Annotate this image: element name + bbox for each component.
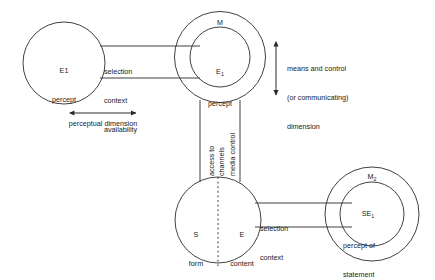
circle-m2-inner-subscript: 1	[371, 213, 374, 219]
diagram-canvas: E1 percept M E1 percept selection contex…	[0, 0, 435, 280]
means-control-line3: dimension	[287, 122, 349, 132]
vertical-band-line1: access to	[207, 146, 217, 176]
vertical-band-line2: channels	[217, 147, 227, 176]
bottom-band-line2: context	[260, 253, 293, 263]
circle-m2-inner-line3: statement	[343, 270, 413, 280]
circle-m-inner-line2: percept	[190, 99, 250, 109]
circle-m-inner-subscript: 1	[221, 71, 224, 77]
circle-m2-inner-line2: percept of	[343, 241, 413, 251]
circle-e1-percept-line2: percept	[24, 95, 104, 105]
circle-e1-percept-line1: E1	[24, 66, 104, 76]
circle-e1-percept-label: E1 percept	[24, 47, 104, 124]
e-content-label: E content	[222, 211, 262, 280]
s-form-label: S form	[178, 211, 214, 280]
perceptual-dimension-label: perceptual dimension	[38, 119, 168, 129]
s-form-sub: form	[178, 259, 214, 269]
bottom-band-label: selection context availability	[260, 205, 293, 280]
circle-m2-inner-main: SE	[362, 209, 372, 218]
circle-m-inner-line1: E1	[190, 67, 250, 80]
top-band-line2: context	[104, 96, 137, 106]
s-form-main: S	[178, 230, 214, 240]
means-control-dimension-label: means and control (or communicating) dim…	[287, 45, 349, 151]
circle-m2-inner-label: SE1 percept of statement about event	[343, 190, 413, 280]
e-content-sub: content	[222, 259, 262, 269]
circle-m-outer-label: M	[198, 18, 242, 28]
means-control-line1: means and control	[287, 64, 349, 74]
vertical-band-line3: media control	[228, 133, 238, 176]
circle-m-inner-label: E1 percept	[190, 48, 250, 128]
circle-m2-outer-subscript: 2	[374, 176, 377, 182]
means-control-line2: (or communicating)	[287, 93, 349, 103]
top-band-label: selection context availability	[104, 48, 137, 154]
e-content-main: E	[222, 230, 262, 240]
top-band-line1: selection	[104, 67, 137, 77]
circle-m2-outer-label: M2	[350, 172, 394, 185]
bottom-band-line1: selection	[260, 224, 293, 234]
circle-m2-inner-line1: SE1	[343, 209, 393, 222]
